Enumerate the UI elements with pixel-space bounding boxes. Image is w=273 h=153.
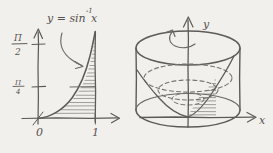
pi-over-4-numerator: Π	[14, 79, 22, 87]
y-tick-label-pi-over-4: Π 4	[13, 79, 24, 96]
left-y-axis	[38, 32, 39, 124]
left-x-axis	[22, 118, 118, 119]
solid-cross-section-hatching	[180, 59, 244, 115]
left-panel-drawing: y = sin -1 x Π 2 Π 4 0 1	[0, 0, 273, 153]
rotation-arrow	[170, 32, 195, 48]
y-tick-pi-over-2	[32, 44, 45, 45]
curve-label-y: y = sin	[46, 12, 86, 25]
label-leader-arrow	[61, 33, 82, 66]
solid-x-axis	[140, 117, 254, 118]
pi-over-2-denominator: 2	[14, 47, 21, 57]
arcsine-curve	[38, 32, 95, 119]
x-tick-label-0: 0	[36, 126, 43, 139]
y-tick-pi-over-4	[32, 86, 46, 87]
left-region-hatching	[30, 36, 99, 114]
vertical-line-x-equals-1	[95, 32, 96, 122]
pi-over-4-denominator: 4	[15, 88, 20, 96]
curve-label-x: x	[91, 12, 98, 25]
x-tick-label-1: 1	[92, 126, 99, 139]
sketch-canvas: y = sin -1 x Π 2 Π 4 0 1	[0, 0, 273, 153]
curve-label: y = sin -1 x	[46, 7, 98, 25]
pi-over-2-numerator: Π	[13, 33, 22, 43]
y-tick-label-pi-over-2: Π 2	[12, 33, 27, 57]
solid-x-axis-label: x	[259, 114, 266, 127]
solid-y-axis-label: y	[202, 18, 210, 31]
